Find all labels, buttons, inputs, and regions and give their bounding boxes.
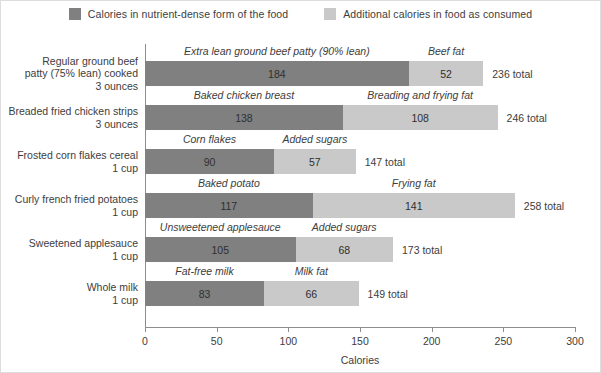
bar-segment-additional[interactable]: 108: [343, 105, 498, 130]
bar-row: Curly french fried potatoes1 cup117141Ba…: [145, 176, 601, 218]
category-label-line: 3 ounces: [0, 118, 138, 131]
category-label: Breaded fried chicken strips3 ounces: [0, 105, 138, 130]
bar-segment-nutrient-dense[interactable]: 105: [145, 237, 296, 262]
bar-row: Breaded fried chicken strips3 ounces1381…: [145, 88, 601, 130]
segment-caption-additional: Beef fat: [428, 45, 464, 57]
category-label-line: 1 cup: [0, 206, 138, 219]
x-axis-tick: [288, 327, 289, 332]
category-label: Whole milk1 cup: [0, 281, 138, 306]
segment-caption-nutrient-dense: Fat-free milk: [175, 265, 233, 277]
legend-entry-additional: Additional calories in food as consumed: [324, 8, 532, 20]
stacked-bar[interactable]: 117141: [145, 193, 515, 218]
x-axis-tick-label: 200: [423, 335, 441, 347]
row-total-label: 173 total: [393, 237, 442, 262]
stacked-bar[interactable]: 8366: [145, 281, 359, 306]
x-axis-tick: [217, 327, 218, 332]
bar-segment-nutrient-dense[interactable]: 138: [145, 105, 343, 130]
category-label-line: 1 cup: [0, 250, 138, 263]
segment-caption-additional: Added sugars: [282, 133, 347, 145]
segment-caption-additional: Milk fat: [295, 265, 328, 277]
category-label-line: Sweetened applesauce: [0, 237, 138, 250]
bar-segment-nutrient-dense[interactable]: 90: [145, 149, 274, 174]
legend-entry-nutrient-dense: Calories in nutrient-dense form of the f…: [69, 8, 288, 20]
category-label: Curly french fried potatoes1 cup: [0, 193, 138, 218]
segment-caption-nutrient-dense: Baked potato: [198, 177, 260, 189]
segment-caption-additional: Breading and frying fat: [367, 89, 473, 101]
segment-caption-additional: Frying fat: [392, 177, 436, 189]
row-total-label: 149 total: [359, 281, 408, 306]
chart-legend: Calories in nutrient-dense form of the f…: [0, 8, 601, 20]
row-total-label: 258 total: [515, 193, 564, 218]
legend-swatch-icon-additional: [324, 8, 336, 20]
bar-row: Sweetened applesauce1 cup10568Unsweetene…: [145, 220, 601, 262]
bar-segment-additional[interactable]: 68: [296, 237, 393, 262]
category-label: Sweetened applesauce1 cup: [0, 237, 138, 262]
x-axis-tick-label: 50: [211, 335, 223, 347]
x-axis-tick: [575, 327, 576, 332]
bar-row: Regular ground beefpatty (75% lean) cook…: [145, 44, 601, 86]
plot-area: 050100150200250300 Regular ground beefpa…: [145, 44, 575, 327]
bar-row: Frosted corn flakes cereal1 cup9057Corn …: [145, 132, 601, 174]
bar-segment-additional[interactable]: 66: [264, 281, 359, 306]
bar-segment-additional[interactable]: 57: [274, 149, 356, 174]
legend-swatch-icon-nutrient-dense: [69, 8, 81, 20]
bar-segment-nutrient-dense[interactable]: 83: [145, 281, 264, 306]
category-label-line: 3 ounces: [0, 80, 138, 93]
category-label-line: Breaded fried chicken strips: [0, 105, 138, 118]
row-total-label: 246 total: [498, 105, 547, 130]
x-axis-title: Calories: [341, 354, 380, 366]
stacked-bar[interactable]: 18452: [145, 61, 483, 86]
row-total-label: 147 total: [356, 149, 405, 174]
x-axis-tick-label: 100: [280, 335, 298, 347]
category-label-line: Frosted corn flakes cereal: [0, 149, 138, 162]
category-label-line: patty (75% lean) cooked: [0, 67, 138, 80]
stacked-bar[interactable]: 10568: [145, 237, 393, 262]
category-label: Regular ground beefpatty (75% lean) cook…: [0, 55, 138, 93]
stacked-bar[interactable]: 9057: [145, 149, 356, 174]
category-label-line: 1 cup: [0, 294, 138, 307]
category-label-line: Whole milk: [0, 281, 138, 294]
bar-segment-additional[interactable]: 52: [409, 61, 484, 86]
bar-segment-nutrient-dense[interactable]: 117: [145, 193, 313, 218]
stacked-bar[interactable]: 138108: [145, 105, 498, 130]
category-label-line: Curly french fried potatoes: [0, 193, 138, 206]
x-axis-tick-label: 250: [495, 335, 513, 347]
segment-caption-nutrient-dense: Baked chicken breast: [194, 89, 294, 101]
x-axis-tick: [360, 327, 361, 332]
bar-segment-nutrient-dense[interactable]: 184: [145, 61, 409, 86]
bar-segment-additional[interactable]: 141: [313, 193, 515, 218]
segment-caption-nutrient-dense: Corn flakes: [183, 133, 236, 145]
row-total-label: 236 total: [483, 61, 532, 86]
x-axis-tick-label: 0: [142, 335, 148, 347]
category-label-line: Regular ground beef: [0, 55, 138, 68]
x-axis-tick: [432, 327, 433, 332]
segment-caption-nutrient-dense: Unsweetened applesauce: [160, 221, 281, 233]
category-label: Frosted corn flakes cereal1 cup: [0, 149, 138, 174]
legend-label-additional: Additional calories in food as consumed: [343, 8, 532, 20]
x-axis-tick-label: 300: [566, 335, 584, 347]
bar-row: Whole milk1 cup8366Fat-free milkMilk fat…: [145, 264, 601, 306]
category-label-line: 1 cup: [0, 162, 138, 175]
segment-caption-nutrient-dense: Extra lean ground beef patty (90% lean): [184, 45, 370, 57]
x-axis-tick-label: 150: [351, 335, 369, 347]
legend-label-nutrient-dense: Calories in nutrient-dense form of the f…: [88, 8, 288, 20]
x-axis-tick: [503, 327, 504, 332]
segment-caption-additional: Added sugars: [312, 221, 377, 233]
x-axis-tick: [145, 327, 146, 332]
